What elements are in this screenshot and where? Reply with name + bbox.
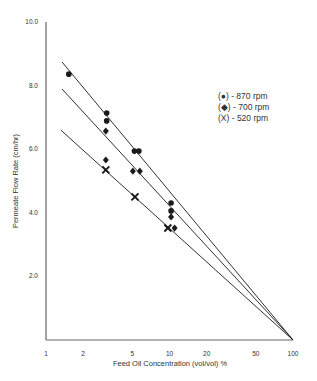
- legend: (●) - 870 rpm (◆) - 700 rpm (X) - 520 rp…: [218, 91, 269, 123]
- x-tick-label: 5: [131, 350, 135, 357]
- x-tick-labels: 125102050100: [44, 350, 299, 357]
- circle-marker: [66, 71, 72, 77]
- circle-marker: [168, 200, 174, 206]
- diamond-marker: [103, 156, 109, 163]
- diamond-marker: [137, 168, 143, 175]
- y-tick-label: 4.0: [29, 209, 38, 216]
- diamond-marker: [103, 127, 109, 134]
- y-axis-title: Permeate Flow Rate (cm/hr): [11, 133, 20, 228]
- x-marker: [131, 193, 138, 200]
- fit-line: [61, 130, 293, 340]
- y-tick-label: 6.0: [29, 145, 38, 152]
- x-tick-label: 10: [166, 350, 174, 357]
- x-tick-label: 100: [288, 350, 299, 357]
- y-tick-label: 10.0: [25, 18, 38, 25]
- axes: [46, 22, 293, 340]
- x-tick-label: 20: [203, 350, 211, 357]
- x-marker: [164, 225, 171, 232]
- y-tick-labels: 2.04.06.08.010.0: [25, 18, 38, 279]
- circle-marker: [168, 208, 174, 214]
- y-tick-label: 8.0: [29, 82, 38, 89]
- x-tick-label: 50: [252, 350, 260, 357]
- legend-item-700: (◆) - 700 rpm: [218, 102, 269, 112]
- circle-marker: [136, 148, 142, 154]
- legend-item-870: (●) - 870 rpm: [218, 91, 268, 101]
- legend-item-520: (X) - 520 rpm: [218, 113, 268, 123]
- data-markers: [66, 71, 178, 231]
- diamond-marker: [168, 213, 174, 220]
- x-tick-label: 1: [44, 350, 48, 357]
- fit-line: [62, 89, 293, 340]
- circle-marker: [104, 110, 110, 116]
- chart: 2.04.06.08.010.0 125102050100 Permeate F…: [0, 0, 317, 381]
- circle-marker: [104, 118, 110, 124]
- y-tick-label: 2.0: [29, 272, 38, 279]
- x-tick-label: 2: [81, 350, 85, 357]
- x-axis-title: Feed Oil Concentration (vol/vol) %: [113, 359, 228, 368]
- x-marker: [102, 166, 109, 173]
